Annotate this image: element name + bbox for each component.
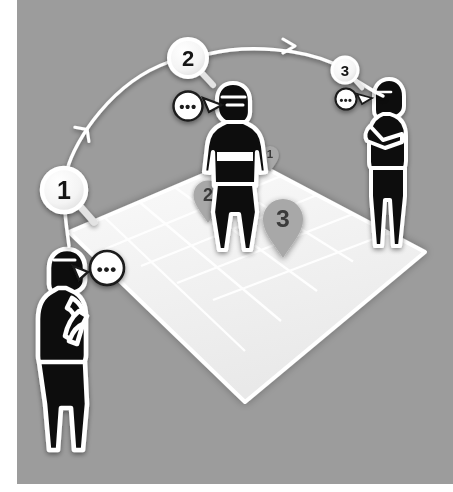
step-marker-3-label: 3 bbox=[341, 62, 349, 79]
magnifier-handle bbox=[201, 72, 213, 85]
center-waistband bbox=[217, 152, 253, 161]
bubble-dots: ••• bbox=[97, 260, 117, 279]
step-marker-1[interactable]: 1 bbox=[42, 168, 94, 222]
step-marker-1-label: 1 bbox=[57, 176, 71, 204]
pin-3-label: 3 bbox=[276, 205, 290, 232]
illustration-svg: 1 2 3 bbox=[17, 0, 453, 484]
step-marker-3[interactable]: 3 bbox=[332, 57, 362, 88]
pin-2-label: 2 bbox=[203, 185, 213, 205]
illustration-canvas: 1 2 3 bbox=[17, 0, 453, 484]
path-segment-1 bbox=[67, 62, 169, 170]
pin-1-label: 1 bbox=[267, 148, 274, 160]
path-segment-0 bbox=[65, 209, 69, 246]
figure-observer-right[interactable] bbox=[366, 79, 406, 246]
speech-bubble-center: ••• bbox=[174, 92, 223, 121]
bubble-dots: ••• bbox=[340, 94, 353, 106]
step-marker-2[interactable]: 2 bbox=[169, 39, 213, 85]
path-segment-2 bbox=[208, 49, 335, 64]
speech-bubble-right: ••• bbox=[336, 89, 373, 110]
bubble-tail bbox=[357, 94, 372, 104]
illustration-root: 1 2 3 bbox=[0, 0, 453, 492]
magnifier-handle bbox=[79, 205, 94, 222]
step-marker-2-label: 2 bbox=[182, 46, 194, 71]
bubble-dots: ••• bbox=[179, 98, 197, 115]
left-legs bbox=[39, 362, 87, 450]
magnifier-handle bbox=[354, 79, 362, 88]
